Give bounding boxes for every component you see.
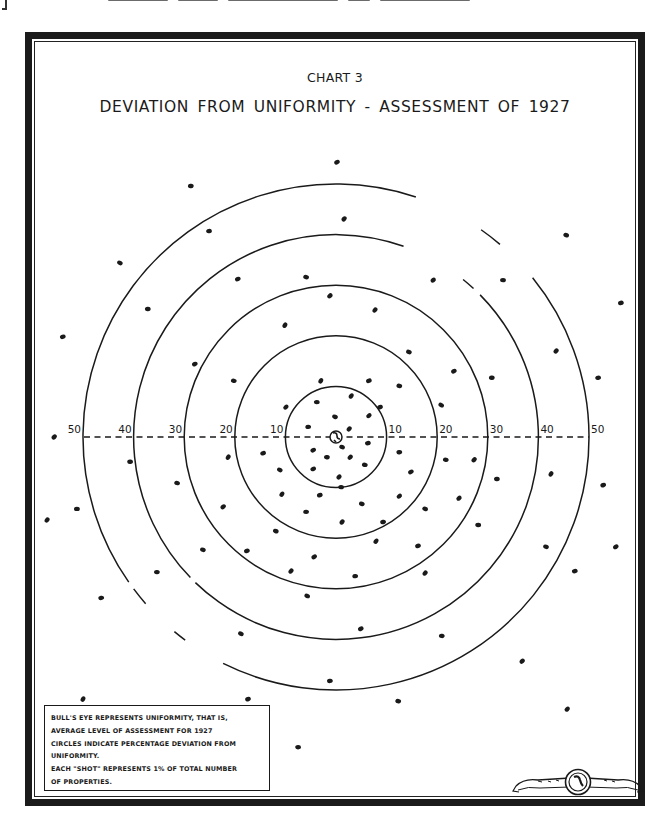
shot-point <box>339 444 346 450</box>
shot-point <box>74 507 80 511</box>
shot-point <box>396 493 403 500</box>
tick-label-right-30: 30 <box>490 423 503 435</box>
shot-point <box>231 378 238 383</box>
shot-point <box>361 462 368 468</box>
tick-label-left-50: 50 <box>68 423 81 435</box>
shot-point <box>396 450 402 455</box>
shot-point <box>310 447 317 454</box>
shot-point <box>553 347 560 354</box>
shot-point <box>338 485 344 490</box>
shot-point <box>127 459 133 464</box>
shot-point <box>191 361 198 367</box>
shot-point <box>564 706 571 713</box>
shot-point <box>260 450 267 456</box>
shot-point <box>244 548 251 554</box>
shot-point <box>450 368 457 375</box>
legend-line: EACH "SHOT" REPRESENTS 1% OF TOTAL NUMBE… <box>51 763 269 776</box>
shot-point <box>281 322 288 329</box>
shot-point <box>475 523 481 528</box>
shot-point <box>489 375 495 380</box>
shot-point <box>407 469 414 476</box>
shot-point <box>305 425 311 430</box>
shot-point <box>396 383 403 389</box>
shot-point <box>455 495 462 502</box>
tick-label-right-40: 40 <box>540 423 553 435</box>
shot-point <box>339 518 346 525</box>
legend-line: AVERAGE LEVEL OF ASSESSMENT FOR 1927 <box>51 725 269 738</box>
shot-point <box>430 277 437 284</box>
shot-point <box>332 414 339 420</box>
shot-point <box>346 425 353 432</box>
shot-point <box>438 402 445 409</box>
tick-label-left-10: 10 <box>270 423 283 435</box>
seal-ribbon-icon <box>513 770 643 795</box>
shot-point <box>199 547 206 553</box>
shot-point <box>347 454 354 461</box>
shot-point <box>519 658 526 665</box>
shot-point <box>365 412 372 419</box>
shot-point <box>145 307 151 312</box>
shot-point <box>612 543 619 550</box>
shot-point <box>543 544 550 550</box>
shot-point <box>295 745 301 750</box>
shot-point <box>234 276 241 282</box>
shot-point <box>244 696 251 702</box>
legend-line: CIRCLES INDICATE PERCENTAGE DEVIATION FR… <box>51 738 269 751</box>
shot-point <box>333 159 340 166</box>
shot-point <box>595 375 601 380</box>
shot-point <box>373 538 380 545</box>
shot-point <box>317 377 324 384</box>
shot-point <box>405 349 412 355</box>
tick-label-right-20: 20 <box>439 423 452 435</box>
shot-point <box>618 300 625 306</box>
shot-point <box>500 278 506 283</box>
shot-point <box>316 492 323 498</box>
shot-point <box>357 625 364 632</box>
tick-label-left-30: 30 <box>169 423 182 435</box>
shot-point <box>98 595 105 600</box>
shot-point <box>287 567 294 574</box>
shot-point <box>225 454 232 461</box>
shot-point <box>563 232 570 238</box>
shot-point <box>310 466 317 472</box>
legend-box: BULL'S EYE REPRESENTS UNIFORMITY, THAT I… <box>44 705 270 791</box>
shot-point <box>415 543 422 549</box>
shot-point <box>365 378 372 384</box>
legend-line: OF PROPERTIES. <box>51 776 269 789</box>
shot-point <box>220 503 227 510</box>
tick-label-left-40: 40 <box>118 423 131 435</box>
shot-point <box>174 480 181 486</box>
shot-point <box>188 183 194 188</box>
shot-point <box>311 553 318 560</box>
shot-point <box>380 519 387 525</box>
shot-point <box>327 678 333 683</box>
legend-line: UNIFORMITY. <box>51 750 269 763</box>
shot-point <box>326 292 333 299</box>
shot-point <box>303 274 310 280</box>
shot-point <box>276 467 283 474</box>
shot-point <box>272 528 279 534</box>
shot-point <box>44 516 51 523</box>
shot-point <box>365 440 372 446</box>
shot-point <box>358 501 365 507</box>
shot-point <box>371 306 378 313</box>
shot-point <box>439 633 445 638</box>
shot-point <box>422 506 429 512</box>
shot-point <box>278 491 285 498</box>
tick-label-right-10: 10 <box>389 423 402 435</box>
shot-point <box>572 568 579 574</box>
shot-point <box>282 404 289 411</box>
shot-point <box>80 695 87 702</box>
shot-point <box>303 510 309 515</box>
shot-point <box>395 698 402 704</box>
shot-point <box>314 400 320 405</box>
shot-point <box>51 433 58 440</box>
tick-label-left-20: 20 <box>219 423 232 435</box>
shot-point <box>324 455 330 460</box>
shot-point <box>348 392 355 399</box>
legend-line: BULL'S EYE REPRESENTS UNIFORMITY, THAT I… <box>51 712 269 725</box>
shot-point <box>422 569 429 576</box>
shot-point <box>154 570 160 575</box>
bulls-eye-icon <box>330 431 342 443</box>
shot-point <box>600 482 607 488</box>
